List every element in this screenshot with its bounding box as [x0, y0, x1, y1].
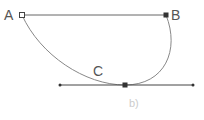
- tangent-line-left-end: [59, 84, 62, 87]
- label-c: C: [93, 63, 103, 79]
- tangent-line-right-end: [192, 84, 195, 87]
- label-b: B: [171, 7, 180, 23]
- point-c-marker: [123, 83, 128, 88]
- figure-caption: b): [129, 97, 139, 109]
- point-b-marker: [164, 13, 169, 18]
- diagram-canvas: A B C b): [0, 0, 204, 120]
- label-a: A: [4, 7, 14, 23]
- point-a-marker: [20, 13, 25, 18]
